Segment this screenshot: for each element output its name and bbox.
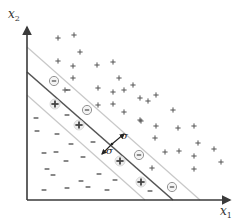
plus-marker xyxy=(116,75,121,80)
support-vector-negative xyxy=(134,150,143,159)
y-axis-label-sub: 2 xyxy=(15,14,20,23)
plus-marker xyxy=(71,32,76,37)
support-vector-positive xyxy=(50,99,60,109)
plus-marker xyxy=(162,149,167,154)
y-axis-label: x2 xyxy=(8,8,20,23)
plus-marker xyxy=(130,82,135,87)
support-vector-positive xyxy=(74,120,84,130)
plus-marker xyxy=(195,140,200,145)
x-axis-label-sub: 1 xyxy=(227,211,232,220)
margin-lines xyxy=(27,47,200,200)
plus-marker xyxy=(95,102,100,107)
plus-marker xyxy=(176,148,181,153)
plus-marker xyxy=(94,62,99,67)
plus-marker xyxy=(153,123,158,128)
plus-marker xyxy=(191,166,196,171)
plus-marker xyxy=(137,117,142,122)
plus-marker xyxy=(153,92,158,97)
x-axis-label-text: x xyxy=(220,204,227,218)
support-vector-positive xyxy=(115,156,125,166)
upper-margin-line xyxy=(27,47,200,200)
plus-marker xyxy=(145,98,150,103)
y-axis-label-text: x xyxy=(8,7,15,21)
plus-marker xyxy=(137,95,142,100)
plus-marker xyxy=(110,101,115,106)
plus-marker xyxy=(70,75,75,80)
plus-marker xyxy=(95,85,100,90)
plus-marker xyxy=(211,146,216,151)
sigma-label-upper: σ xyxy=(121,131,128,141)
plus-marker xyxy=(152,135,157,140)
support-vector-negative xyxy=(167,182,176,191)
plus-marker xyxy=(121,109,126,114)
plus-marker xyxy=(110,89,115,94)
plus-marker xyxy=(218,159,223,164)
svm-diagram xyxy=(0,0,241,224)
plus-marker xyxy=(170,107,175,112)
x-axis-label: x1 xyxy=(220,205,232,220)
plus-marker xyxy=(138,118,143,123)
plus-marker xyxy=(191,153,196,158)
plus-marker xyxy=(175,125,180,130)
plus-marker xyxy=(121,87,126,92)
plus-marker xyxy=(191,123,196,128)
sigma-label-lower: σ xyxy=(106,146,113,156)
decision-boundary xyxy=(27,72,173,200)
support-vector-positive xyxy=(136,177,146,187)
plus-marker xyxy=(149,165,154,170)
support-vector-negative xyxy=(82,105,91,114)
axes xyxy=(27,27,230,200)
plus-marker xyxy=(110,59,115,64)
plus-marker xyxy=(55,58,60,63)
plus-marker xyxy=(70,63,75,68)
support-vector-negative xyxy=(49,76,58,85)
boundary-line xyxy=(27,72,173,200)
plus-marker xyxy=(55,35,60,40)
plus-marker xyxy=(77,49,82,54)
